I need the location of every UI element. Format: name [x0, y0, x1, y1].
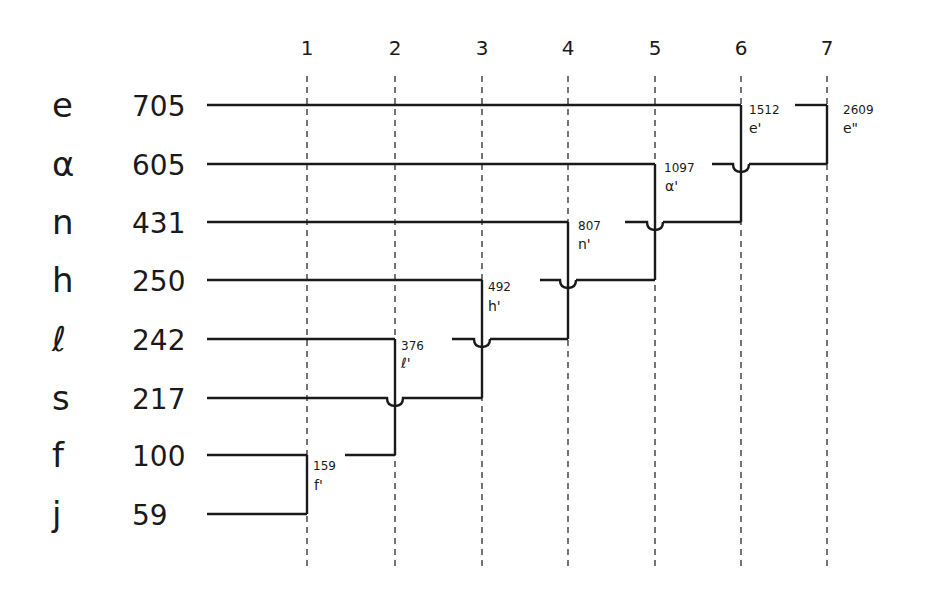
- symbol-j: j: [51, 494, 61, 534]
- merge-value-5: 1097: [664, 161, 695, 175]
- merge-labels: 159 f' 376 ℓ' 492 h' 807 n' 1097 α' 1512…: [313, 103, 874, 493]
- frequency-n: 431: [132, 207, 185, 240]
- merge-label-5: α': [665, 178, 678, 194]
- frequency-l: 242: [132, 324, 185, 357]
- merge-stub-5: [712, 164, 749, 172]
- merge-value-1: 159: [313, 459, 336, 473]
- merge-stub-2: [452, 339, 490, 347]
- symbol-a: α: [52, 144, 74, 184]
- column-label-7: 7: [821, 36, 834, 60]
- symbol-frequencies: 705 605 431 250 242 217 100 59: [132, 90, 185, 532]
- symbol-e: e: [52, 85, 73, 125]
- merge-label-2: ℓ': [400, 355, 411, 371]
- merge-value-7: 2609: [843, 103, 874, 117]
- merge-value-6: 1512: [749, 103, 780, 117]
- column-label-4: 4: [562, 36, 575, 60]
- merge-value-4: 807: [578, 219, 601, 233]
- frequency-j: 59: [132, 499, 168, 532]
- symbol-s: s: [52, 378, 70, 418]
- symbol-l: ℓ: [51, 319, 66, 359]
- frequency-f: 100: [132, 440, 185, 473]
- merge-label-6: e': [749, 120, 761, 136]
- leaf-lines: [207, 105, 741, 514]
- column-headers: 1 2 3 4 5 6 7: [301, 36, 834, 60]
- merge-connectors: [307, 105, 827, 514]
- symbol-letters: e α n h ℓ s f j: [51, 85, 74, 534]
- symbol-n: n: [52, 202, 74, 242]
- merge-value-2: 376: [401, 339, 424, 353]
- merge-label-1: f': [314, 477, 323, 493]
- frequency-a: 605: [132, 149, 185, 182]
- merge-value-3: 492: [488, 280, 511, 294]
- merge-label-4: n': [578, 236, 591, 252]
- merge-label-3: h': [488, 298, 501, 314]
- frequency-h: 250: [132, 265, 185, 298]
- column-label-6: 6: [735, 36, 748, 60]
- symbol-h: h: [52, 260, 74, 300]
- merge-stub-3: [540, 280, 576, 288]
- frequency-s: 217: [132, 383, 185, 416]
- symbol-f: f: [52, 435, 65, 475]
- column-label-5: 5: [649, 36, 662, 60]
- column-label-3: 3: [476, 36, 489, 60]
- merge-stub-4: [625, 222, 663, 230]
- leaf-line-s: [207, 398, 482, 406]
- column-label-2: 2: [389, 36, 402, 60]
- column-label-1: 1: [301, 36, 314, 60]
- frequency-e: 705: [132, 90, 185, 123]
- merge-label-7: e": [843, 120, 858, 136]
- huffman-diagram: 1 2 3 4 5 6 7 e α n h ℓ s f j 705 605 43…: [0, 0, 932, 597]
